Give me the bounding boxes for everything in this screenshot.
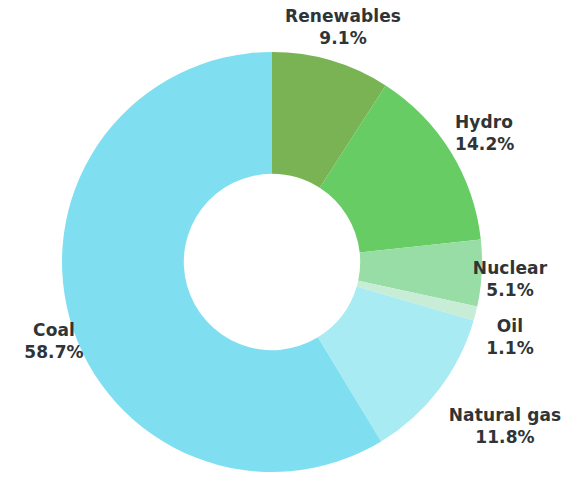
slice-label-nuclear-name: Nuclear xyxy=(455,258,565,280)
slice-label-hydro-name: Hydro xyxy=(455,112,565,134)
slice-label-renewables: Renewables 9.1% xyxy=(253,6,433,50)
slice-label-hydro: Hydro 14.2% xyxy=(455,112,565,156)
slice-label-oil-value: 1.1% xyxy=(455,338,565,360)
slice-label-natural-gas-name: Natural gas xyxy=(440,405,570,427)
slice-label-oil: Oil 1.1% xyxy=(455,316,565,360)
slice-label-natural-gas-value: 11.8% xyxy=(440,427,570,449)
slice-label-coal-value: 58.7% xyxy=(4,342,104,364)
slice-label-renewables-name: Renewables xyxy=(253,6,433,28)
slice-label-oil-name: Oil xyxy=(455,316,565,338)
slice-label-nuclear-value: 5.1% xyxy=(455,280,565,302)
donut-chart: Renewables 9.1% Hydro 14.2% Nuclear 5.1%… xyxy=(0,0,574,497)
donut-slice-group xyxy=(62,52,482,472)
slice-label-hydro-value: 14.2% xyxy=(455,134,565,156)
slice-label-nuclear: Nuclear 5.1% xyxy=(455,258,565,302)
slice-label-natural-gas: Natural gas 11.8% xyxy=(440,405,570,449)
slice-label-coal-name: Coal xyxy=(4,320,104,342)
slice-label-renewables-value: 9.1% xyxy=(253,28,433,50)
slice-label-coal: Coal 58.7% xyxy=(4,320,104,364)
